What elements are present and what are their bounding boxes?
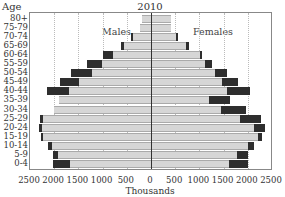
male-bar-light xyxy=(79,78,151,86)
female-bar-light xyxy=(151,33,176,41)
age-group-label: 0-4 xyxy=(0,159,28,168)
male-bar-light xyxy=(52,142,151,150)
male-bar-light xyxy=(124,42,151,50)
female-bar-light xyxy=(151,51,200,59)
female-bar-light xyxy=(151,151,237,159)
male-bar-light xyxy=(43,115,151,123)
female-bar-light xyxy=(151,15,171,23)
male-bar-light xyxy=(42,124,151,132)
female-bar-light xyxy=(151,160,229,168)
male-bar-light xyxy=(59,96,151,104)
male-bar-light xyxy=(102,60,151,68)
chart-title: 2010 xyxy=(128,1,172,12)
female-bar-light xyxy=(151,142,248,150)
male-bar-light xyxy=(133,33,151,41)
female-bar-light xyxy=(151,96,209,104)
male-bar-light xyxy=(54,106,151,114)
female-bar-light xyxy=(151,60,205,68)
male-bar-light xyxy=(142,15,151,23)
y-axis-title: Age xyxy=(2,1,22,12)
x-axis-title: Thousands xyxy=(120,186,180,196)
male-bar-light xyxy=(92,69,151,77)
female-bar-light xyxy=(151,124,254,132)
female-bar-light xyxy=(151,69,215,77)
female-bar-light xyxy=(151,24,171,32)
female-bar-light xyxy=(151,115,240,123)
female-bar-light xyxy=(151,133,258,141)
male-bar-light xyxy=(70,160,151,168)
male-bar-light xyxy=(113,51,151,59)
male-bar-light xyxy=(58,151,151,159)
zero-axis-line xyxy=(151,13,152,169)
male-bar-light xyxy=(69,87,151,95)
male-bar-light xyxy=(140,24,151,32)
female-bar-light xyxy=(151,87,227,95)
plot-area: Males Females xyxy=(29,12,272,170)
population-pyramid-chart: Age 2010 Males Females 80+75-7970-7465-6… xyxy=(0,0,285,197)
male-bar-light xyxy=(43,133,151,141)
female-bar-light xyxy=(151,78,222,86)
female-bar-light xyxy=(151,106,221,114)
x-tick-label: 2500 xyxy=(256,175,285,185)
female-bar-light xyxy=(151,42,186,50)
